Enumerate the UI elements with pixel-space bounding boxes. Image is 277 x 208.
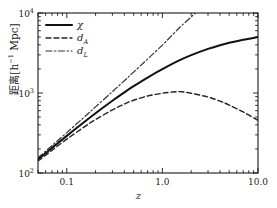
x-tick-label: 0.1 [60, 177, 74, 187]
x-tick-label: 1.0 [155, 177, 169, 187]
x-axis-label: z [0, 190, 277, 201]
plot-frame [38, 13, 258, 173]
x-tick-label: 10.0 [248, 177, 268, 187]
plot-canvas [0, 0, 277, 208]
y-axis-label-units-exponent: −1 [7, 54, 15, 64]
legend-label-1: χ [77, 19, 83, 30]
legend-label-3: dL [77, 45, 88, 59]
figure-distance-vs-redshift: 距离[h−1 Mpc] z 0.11.010.0 102103104 χdAdL [0, 0, 277, 208]
y-tick-label: 104 [10, 7, 34, 19]
y-axis-label-units-open: [h [8, 64, 20, 75]
y-tick-label: 103 [10, 87, 34, 99]
y-tick-label: 102 [10, 167, 34, 179]
y-axis-label-units-tail: Mpc] [8, 23, 20, 54]
legend-label-2: dA [77, 32, 88, 46]
